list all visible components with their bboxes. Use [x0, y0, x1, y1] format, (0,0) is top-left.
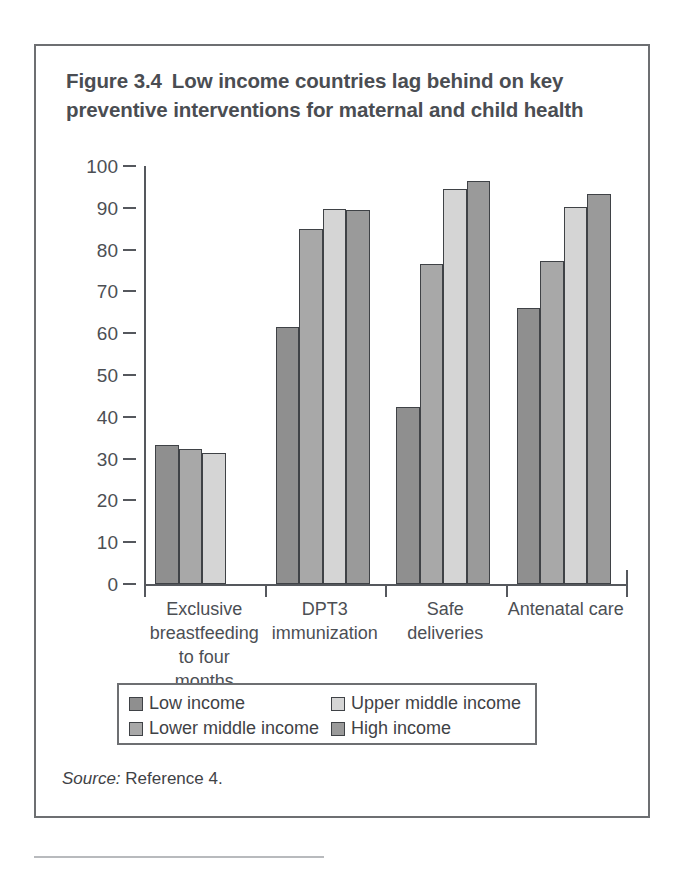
y-axis-tick-mark	[123, 207, 136, 209]
x-axis-tick-mark	[385, 584, 387, 597]
bar-group	[387, 166, 508, 584]
bar	[179, 449, 203, 584]
x-axis-category-label-line: Exclusive	[144, 598, 265, 622]
bar	[202, 453, 226, 584]
y-axis-tick-label: 90	[48, 198, 118, 217]
bar	[346, 210, 370, 584]
x-axis-category-label-line: Antenatal care	[506, 598, 627, 622]
legend-item-label: Lower middle income	[149, 718, 319, 739]
y-axis-tick-mark	[123, 249, 136, 251]
x-axis-category-label-line: deliveries	[385, 622, 506, 646]
bar	[540, 261, 564, 584]
x-axis-category-label: Exclusivebreastfeedingto fourmonths	[144, 598, 265, 694]
legend-item[interactable]: Lower middle income	[129, 718, 319, 739]
bar	[323, 209, 347, 584]
y-axis-tick-label: 100	[48, 157, 118, 176]
x-axis-tick-mark	[265, 584, 267, 597]
x-axis-tick-mark	[144, 584, 146, 597]
y-axis-tick-mark	[123, 374, 136, 376]
legend-item[interactable]: Low income	[129, 693, 245, 714]
bar	[396, 407, 420, 584]
y-axis-tick-label: 40	[48, 407, 118, 426]
bar	[443, 189, 467, 584]
y-axis-tick-mark	[123, 165, 136, 167]
y-axis-tick-label: 50	[48, 366, 118, 385]
y-axis-tick-mark	[123, 583, 136, 585]
bar-group	[508, 166, 629, 584]
x-axis-category-label-line: breastfeeding	[144, 622, 265, 646]
y-axis-tick-mark	[123, 332, 136, 334]
y-axis-tick-mark	[123, 416, 136, 418]
x-axis-tick-mark	[626, 584, 628, 597]
chart-plot-area: 0102030405060708090100 Exclusivebreastfe…	[36, 166, 652, 646]
x-axis-category-label: Safedeliveries	[385, 598, 506, 646]
y-axis-tick-label: 30	[48, 449, 118, 468]
bar	[299, 229, 323, 584]
y-axis-tick-label: 70	[48, 282, 118, 301]
page-bottom-rule	[34, 856, 324, 858]
y-axis: 0102030405060708090100	[36, 166, 144, 586]
y-axis-tick-mark	[123, 541, 136, 543]
source-label: Source:	[62, 769, 121, 788]
y-axis-tick-label: 80	[48, 240, 118, 259]
chart-legend: Low incomeUpper middle incomeLower middl…	[117, 683, 537, 745]
figure-number: Figure 3.4	[66, 69, 162, 92]
bar	[276, 327, 300, 584]
legend-swatch-icon	[331, 697, 345, 711]
y-axis-tick-label: 20	[48, 491, 118, 510]
figure-container: Figure 3.4Low income countries lag behin…	[34, 44, 650, 818]
y-axis-tick-label: 60	[48, 324, 118, 343]
y-axis-tick-label: 10	[48, 533, 118, 552]
legend-item[interactable]: Upper middle income	[331, 693, 521, 714]
bar-group	[146, 166, 267, 584]
source-note: Source: Reference 4.	[62, 769, 223, 789]
bar	[420, 264, 444, 584]
y-axis-tick-mark	[123, 290, 136, 292]
figure-title: Figure 3.4Low income countries lag behin…	[66, 66, 586, 124]
bar	[517, 308, 541, 584]
bar	[155, 445, 179, 584]
legend-swatch-icon	[129, 697, 143, 711]
figure-page: Figure 3.4Low income countries lag behin…	[0, 0, 684, 873]
source-value: Reference 4.	[125, 769, 222, 788]
bar	[564, 207, 588, 584]
y-axis-tick-label: 0	[48, 575, 118, 594]
y-axis-tick-mark	[123, 458, 136, 460]
x-axis-category-label-line: immunization	[265, 622, 386, 646]
x-axis-ticks	[144, 584, 628, 598]
bar-series-area	[146, 166, 628, 584]
x-axis-category-label: DPT3immunization	[265, 598, 386, 646]
legend-swatch-icon	[331, 722, 345, 736]
x-axis-category-label: Antenatal care	[506, 598, 627, 622]
y-axis-tick-mark	[123, 499, 136, 501]
x-axis-category-label-line: to four	[144, 646, 265, 670]
legend-item-label: High income	[351, 718, 451, 739]
legend-item-label: Low income	[149, 693, 245, 714]
bar	[587, 194, 611, 584]
legend-item-label: Upper middle income	[351, 693, 521, 714]
legend-item[interactable]: High income	[331, 718, 451, 739]
bar	[467, 181, 491, 584]
x-axis-category-label-line: DPT3	[265, 598, 386, 622]
x-axis-category-label-line: Safe	[385, 598, 506, 622]
legend-swatch-icon	[129, 722, 143, 736]
bar-group	[267, 166, 388, 584]
x-axis-tick-mark	[506, 584, 508, 597]
